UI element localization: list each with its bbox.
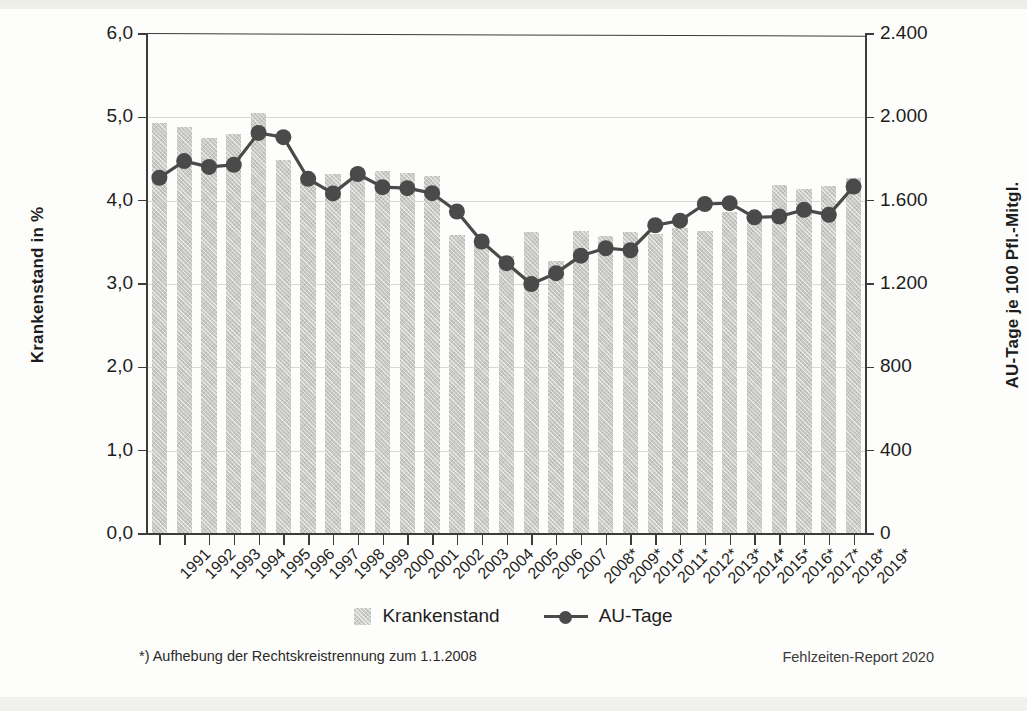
x-tickmark [754,534,755,545]
x-tickmark [630,534,631,545]
au-tage-marker: 1993: 1762 [201,159,217,175]
y-tickmark-left [138,533,147,535]
au-tage-marker: 2019*: 1668 [846,179,862,195]
y-tickmark-left [138,33,147,35]
y-tickmark-right [865,200,874,202]
x-tickmark [581,534,582,545]
au-tage-marker: 2007: 1252 [548,265,564,281]
y-tickmark-right [865,533,874,535]
y-tickmark-right [865,33,874,35]
au-tage-marker: 1998: 1635 [325,185,341,201]
x-tickmark [234,534,235,545]
legend-label-au-tage: AU-Tage [599,605,673,627]
y-ticklabel-left: 5,0 [55,106,133,125]
legend-item-au-tage: AU-Tage [544,605,673,627]
au-tage-marker: 1992: 1790 [176,153,192,169]
source-text: Fehlzeiten-Report 2020 [782,649,934,665]
au-tage-marker: 2018*: 1532 [821,207,837,223]
au-tage-marker: 1995: 1925 [251,125,267,141]
y-ticklabel-right: 800 [880,356,990,375]
y-tickmark-left [138,200,147,202]
au-tage-marker: 2011*: 1482 [647,217,663,233]
au-tage-marker: 2003: 1548 [449,204,465,220]
x-tickmark [531,534,532,545]
y-ticklabel-left: 4,0 [55,190,133,209]
y-tickmark-right [865,367,874,369]
au-tage-marker: 2012*: 1504 [672,213,688,229]
x-tickmark [383,534,384,545]
au-tage-markers: 1991: 17101992: 17901993: 17621994: 1772… [151,125,861,292]
y-ticklabel-left: 1,0 [55,440,133,459]
x-tickmark [283,534,284,545]
line-marker-icon [544,609,588,623]
x-tickmark [259,534,260,545]
x-tickmark [358,534,359,545]
y-tickmark-right [865,117,874,119]
x-tickmark [705,534,706,545]
y-tickmark-left [138,450,147,452]
x-tickmark [482,534,483,545]
au-tage-marker: 1999: 1728 [350,166,366,182]
y-axis-right-title: AU-Tage je 100 Pfl.-Mitgl. [1003,120,1023,450]
line-series-au-tage: 1991: 17101992: 17901993: 17621994: 1772… [147,34,866,534]
y-ticklabel-left: 2,0 [55,356,133,375]
x-tickmark [779,534,780,545]
footnote-text: *) Aufhebung der Rechtskreistrennung zum… [139,648,477,664]
y-tickmark-left [138,117,147,119]
y-ticklabel-right: 2.000 [880,106,990,125]
au-tage-marker: 2002: 1636 [424,185,440,201]
x-tickmark [209,534,210,545]
au-tage-marker: 2016*: 1524 [771,209,787,225]
au-tage-marker: 2010*: 1362 [622,242,638,258]
x-tickmark [655,534,656,545]
au-tage-marker: 2000: 1665 [375,179,391,195]
x-tickmark [680,534,681,545]
y-ticklabel-left: 0,0 [55,523,133,542]
au-tage-marker: 2009*: 1372 [598,240,614,256]
legend-label-krankenstand: Krankenstand [382,605,499,627]
au-tage-marker: 2015*: 1520 [746,209,762,225]
au-tage-marker: 1997: 1705 [300,171,316,187]
au-tage-marker: 2005: 1300 [499,255,515,271]
x-tickmark [407,534,408,545]
y-ticklabel-right: 1.600 [880,190,990,209]
au-tage-marker: 2006: 1200 [523,276,539,292]
x-tickmark [184,534,185,545]
y-tickmark-right [865,283,874,285]
au-tage-marker: 1994: 1772 [226,157,242,173]
x-tickmark [829,534,830,545]
y-ticklabel-left: 6,0 [55,23,133,42]
x-tickmark [606,534,607,545]
x-tickmark [730,534,731,545]
chart-figure: Krankenstand in % AU-Tage je 100 Pfl.-Mi… [0,0,1027,711]
x-tickmark [308,534,309,545]
y-ticklabel-right: 400 [880,440,990,459]
y-tickmark-left [138,367,147,369]
au-tage-marker: 2004: 1404 [474,234,490,250]
x-tickmark [556,534,557,545]
x-tickmark [333,534,334,545]
y-tickmark-right [865,450,874,452]
au-tage-marker: 1996: 1905 [275,129,291,145]
y-tickmark-left [138,283,147,285]
au-tage-marker: 1991: 1710 [151,170,167,186]
y-ticklabel-right: 2.400 [880,23,990,42]
au-tage-marker: 2008*: 1336 [573,248,589,264]
au-tage-marker: 2013*: 1584 [697,196,713,212]
bar-swatch-icon [354,608,371,625]
y-ticklabel-right: 1.200 [880,273,990,292]
x-axis-ticklabels: 1991199219931994199519961997199819992000… [147,545,866,605]
y-axis-left-title: Krankenstand in % [28,155,48,415]
au-tage-marker: 2001: 1660 [399,180,415,196]
plot-area: 1991: 17101992: 17901993: 17621994: 1772… [147,34,866,533]
x-tickmark [804,534,805,545]
legend-item-krankenstand: Krankenstand [354,605,499,627]
chart-legend: Krankenstand AU-Tage [0,605,1027,627]
x-tickmark [159,534,160,545]
y-ticklabel-right: 0 [880,523,990,542]
au-tage-marker: 2017*: 1556 [796,202,812,218]
x-tickmark [854,534,855,545]
x-tickmark [432,534,433,545]
x-tickmark [457,534,458,545]
au-tage-marker: 2014*: 1588 [722,195,738,211]
